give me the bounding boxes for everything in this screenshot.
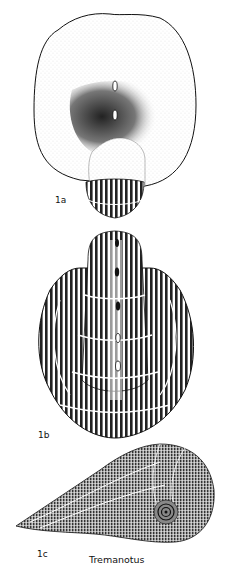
figure-label-1a: 1a	[55, 196, 66, 205]
genus-caption: Tremanotus	[89, 555, 145, 565]
figure-label-1b: 1b	[38, 431, 49, 440]
figure-label-1c: 1c	[37, 550, 48, 559]
figure-1a-shell	[34, 14, 196, 218]
figure-1b-shell	[39, 231, 194, 438]
figure-1c-shell	[16, 444, 214, 542]
plate-illustration	[0, 0, 230, 570]
